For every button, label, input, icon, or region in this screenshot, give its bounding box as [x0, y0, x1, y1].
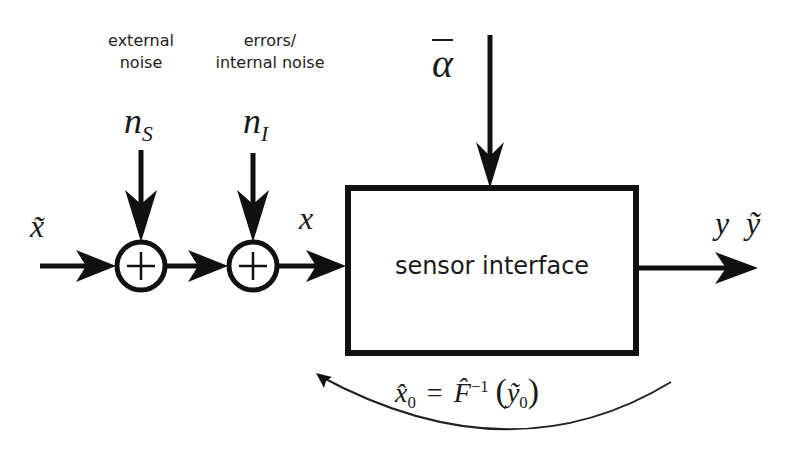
internal-noise-line2: internal noise	[205, 52, 335, 74]
output-arrow	[639, 252, 758, 284]
sensor-interface-label: sensor interface	[348, 252, 636, 280]
internal-noise-line1: errors/	[205, 30, 335, 52]
ns-base: n	[124, 101, 142, 141]
external-noise-line2: noise	[100, 52, 182, 74]
input-arrow	[40, 250, 116, 282]
ni-base: n	[243, 101, 261, 141]
formula-x-hat: x̂	[395, 377, 407, 408]
formula-y-tilde: ỹ	[507, 377, 519, 408]
sensor-interface-text: sensor interface	[395, 252, 589, 280]
external-noise-line1: external	[100, 30, 182, 52]
feedback-formula: x̂0 = F̂−1 (ỹ0)	[395, 372, 539, 413]
formula-f-sup: −1	[471, 377, 489, 396]
x-input-arrow	[277, 250, 346, 282]
x-text: x	[299, 200, 313, 236]
ni-down-arrow	[237, 153, 269, 242]
ns-symbol: nS	[124, 100, 153, 147]
y-text: y	[715, 205, 729, 241]
formula-close-paren: )	[528, 372, 539, 409]
alpha-down-arrow	[476, 35, 504, 188]
summing-junction-ni	[229, 242, 277, 290]
summing-junction-ns	[117, 242, 165, 290]
ns-sub: S	[142, 122, 153, 146]
external-noise-label: external noise	[100, 30, 182, 73]
x-tilde-label: x̃	[30, 208, 44, 245]
y-tilde-label: ỹ	[746, 205, 760, 242]
formula-x-sub: 0	[407, 393, 415, 412]
x-tilde-text: x̃	[30, 208, 44, 244]
ni-sub: I	[261, 122, 268, 146]
x-label: x	[299, 200, 313, 237]
internal-noise-label: errors/ internal noise	[205, 30, 335, 73]
y-label: y	[715, 205, 729, 242]
formula-equals: =	[427, 377, 443, 408]
formula-f-hat: F̂	[454, 377, 471, 408]
ni-symbol: nI	[243, 100, 268, 147]
junction-link-arrow	[165, 250, 228, 282]
formula-y-sub: 0	[519, 393, 527, 412]
y-tilde-text: ỹ	[746, 205, 760, 241]
alpha-base: α	[432, 41, 453, 86]
formula-open-paren: (	[496, 372, 507, 409]
alpha-bar-symbol: α	[432, 40, 453, 87]
ns-down-arrow	[125, 150, 157, 242]
